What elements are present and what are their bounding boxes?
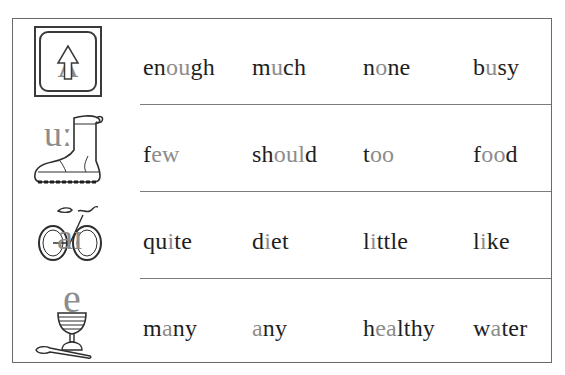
word-too: too (363, 140, 394, 168)
symbol-text: uː (44, 114, 72, 154)
symbol-text: aɪ (57, 217, 83, 257)
word-quite: quite (143, 227, 192, 255)
egg-cup-icon: e (28, 280, 112, 366)
word-much: much (252, 53, 306, 81)
sound-row-3: e many any healthy water (0, 280, 565, 366)
word-few: few (143, 140, 180, 168)
sound-row-0: ʌ enough much none busy (0, 19, 565, 105)
up-arrow-key-icon: ʌ (28, 19, 112, 105)
row-divider (140, 104, 551, 105)
word-diet: diet (252, 227, 289, 255)
word-should: should (252, 140, 317, 168)
word-busy: busy (473, 53, 519, 81)
word-enough: enough (143, 53, 215, 81)
word-water: water (473, 314, 527, 342)
sound-row-1: uː few should too food (0, 106, 565, 192)
bicycle-icon: aɪ (28, 193, 112, 279)
word-none: none (363, 53, 410, 81)
word-healthy: healthy (363, 314, 435, 342)
word-any: any (252, 314, 287, 342)
boot-icon: uː (28, 106, 112, 192)
word-food: food (473, 140, 518, 168)
row-divider (140, 278, 551, 279)
sound-row-2: aɪ quite diet little like (0, 193, 565, 279)
row-divider (140, 191, 551, 192)
word-many: many (143, 314, 197, 342)
word-like: like (473, 227, 510, 255)
word-little: little (363, 227, 408, 255)
